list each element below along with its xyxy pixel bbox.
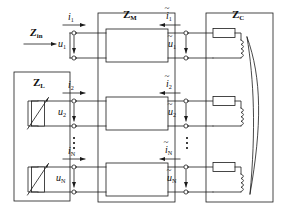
u1-sub: 1 xyxy=(63,43,66,50)
z-c-branch-1-resistor xyxy=(213,29,235,38)
in-sub: N xyxy=(71,150,75,157)
port-n-right-terminal-top xyxy=(184,165,188,169)
port-n-right-current-label: ~iN xyxy=(165,145,172,155)
port-1-left-terminal-top xyxy=(72,31,76,35)
u2t-sub: 2 xyxy=(173,111,176,118)
i2-sub: 2 xyxy=(71,84,74,91)
left-ellipsis xyxy=(72,137,76,149)
tilde-mark: ~ xyxy=(164,72,169,81)
port-2-left-terminal-top xyxy=(72,99,76,103)
z-m-label: ZM xyxy=(123,9,137,20)
port-n-left-voltage-label: uN xyxy=(56,173,65,183)
z-c-outer-box xyxy=(206,13,273,202)
port-2-left-terminal-bottom xyxy=(72,124,76,128)
z-in-label: Zin xyxy=(30,27,42,38)
z-c-branch-n-wire-top xyxy=(235,167,241,174)
z-m-inner-box-1 xyxy=(106,29,168,62)
port-1-right-terminal-bottom xyxy=(184,56,188,60)
z-l-label: ZL xyxy=(33,77,45,88)
z-in-label-base: Z xyxy=(30,26,37,38)
port-2-right-voltage-label: ~u2 xyxy=(168,107,176,117)
port-2-right-terminal-top xyxy=(184,99,188,103)
port-2-left-current-label: i2 xyxy=(68,80,74,90)
port-1-left-terminal-bottom xyxy=(72,56,76,60)
circuit-diagram: Zin ZL ZM ZC i1 u1 ~i1 ~u1 i2 u2 ~i2 ~u2… xyxy=(0,0,281,216)
z-c-branch-2-inductor xyxy=(241,108,244,126)
i1t-sub: 1 xyxy=(169,15,172,22)
z-c-label-sub: C xyxy=(239,14,244,21)
z-m-inner-box-n xyxy=(106,163,168,196)
z-c-branch-n-inductor xyxy=(241,174,244,192)
z-c-branch-1-inductor xyxy=(241,40,244,58)
int-sub: N xyxy=(168,149,172,156)
z-l-variable-resistor-2 xyxy=(28,98,49,130)
z-m-label-sub: M xyxy=(130,14,136,21)
port-2-right-current-label: ~i2 xyxy=(166,79,172,89)
port-n-left-terminal-bottom xyxy=(72,190,76,194)
u2-sub: 2 xyxy=(63,111,66,118)
tilde-mark: ~ xyxy=(163,138,168,147)
port-n-right-terminal-bottom xyxy=(184,190,188,194)
i2t-sub: 2 xyxy=(169,83,172,90)
port-1-right-current-label: ~i1 xyxy=(166,11,172,21)
z-c-label: ZC xyxy=(232,9,244,20)
z-c-branch-2-resistor xyxy=(213,97,235,106)
i1-sub: 1 xyxy=(71,16,74,23)
z-m-outer-box xyxy=(98,13,175,202)
port-1-right-terminal-top xyxy=(184,31,188,35)
port-2-left-voltage-label: u2 xyxy=(58,107,66,117)
tilde-mark: ~ xyxy=(168,100,173,109)
port-n-right-voltage-label: ~uN xyxy=(167,173,176,183)
tilde-mark: ~ xyxy=(167,166,172,175)
z-m-inner-box-2 xyxy=(106,97,168,130)
port-n-left-terminal-top xyxy=(72,165,76,169)
tilde-mark: ~ xyxy=(168,32,173,41)
port-2-right-terminal-bottom xyxy=(184,124,188,128)
un-sub: N xyxy=(61,177,65,184)
z-l-label-sub: L xyxy=(40,82,45,89)
port-1-left-voltage-label: u1 xyxy=(58,39,66,49)
unt-sub: N xyxy=(172,177,176,184)
z-l-variable-resistor-n xyxy=(28,164,49,196)
right-ellipsis xyxy=(185,137,189,149)
z-c-branch-1-wire-top xyxy=(235,33,241,40)
port-1-left-current-label: i1 xyxy=(68,12,74,22)
tilde-mark: ~ xyxy=(164,4,169,13)
z-in-label-sub: in xyxy=(37,32,43,39)
z-c-branch-n-resistor xyxy=(213,163,235,172)
port-1-right-voltage-label: ~u1 xyxy=(168,39,176,49)
z-c-branch-2-wire-top xyxy=(235,101,241,108)
z-c-magnetic-coupling-core xyxy=(247,37,259,194)
u1t-sub: 1 xyxy=(173,43,176,50)
